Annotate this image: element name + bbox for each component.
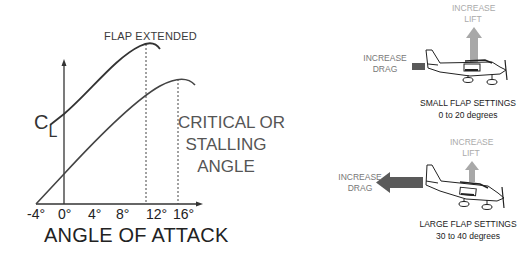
large-drag-label: INCREASEDRAG	[336, 172, 384, 194]
large-airplane-icon	[426, 165, 504, 210]
large-lift-arrow-icon	[465, 161, 479, 182]
large-flap-caption: LARGE FLAP SETTINGS30 to 40 degrees	[413, 218, 523, 242]
